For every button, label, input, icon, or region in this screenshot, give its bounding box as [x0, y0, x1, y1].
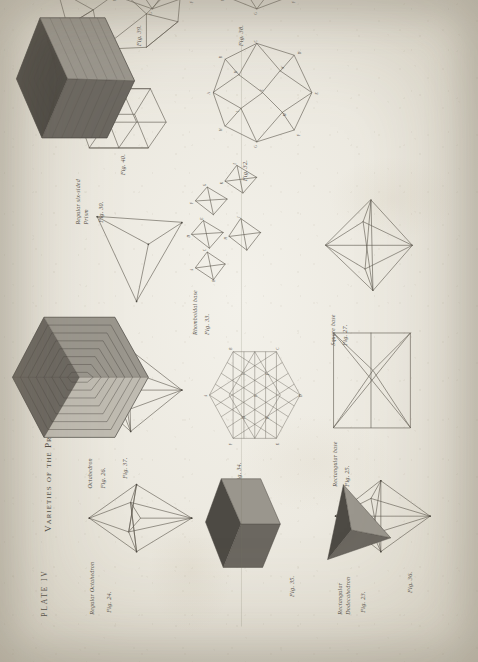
figure-fig26-label: Fig. 26.: [99, 467, 106, 488]
svg-text:E: E: [200, 217, 204, 221]
svg-text:A: A: [207, 92, 211, 96]
svg-text:C: C: [203, 248, 207, 251]
figure-fig27-name: Square base: [330, 314, 337, 345]
figure-fig26-name: Octahedron: [87, 458, 94, 488]
svg-text:F: F: [297, 133, 301, 137]
svg-text:D: D: [298, 51, 302, 55]
svg-text:E: E: [276, 442, 280, 446]
figure-fig24-label: Fig. 24.: [105, 591, 112, 612]
plate-number: PLATE IV: [40, 569, 49, 616]
svg-text:B: B: [212, 279, 216, 282]
svg-text:C: C: [276, 347, 280, 350]
figure-fig30-label: Fig. 30.: [97, 201, 104, 222]
svg-text:K: K: [220, 181, 224, 185]
figure-fig33-label: Fig. 33.: [204, 314, 211, 335]
svg-text:G: G: [203, 183, 207, 186]
svg-text:B: B: [229, 347, 233, 350]
svg-text:F: F: [190, 0, 194, 4]
figure-fig37-label: Fig. 37.: [121, 457, 128, 478]
svg-text:H: H: [219, 128, 223, 132]
svg-text:F: F: [229, 442, 233, 446]
scanned-plate-page: PLATE IV Varieties of the Primitive Form…: [0, 0, 478, 662]
svg-text:G: G: [254, 394, 258, 397]
svg-text:D: D: [299, 394, 303, 398]
svg-text:A: A: [204, 394, 208, 398]
svg-text:G: G: [254, 145, 258, 148]
figure-fig27-label: Fig. 27.: [341, 324, 348, 345]
engraved-plate: PLATE IV Varieties of the Primitive Form…: [32, 35, 446, 626]
svg-text:H: H: [224, 236, 228, 240]
figure-fig36-label: Fig. 36.: [406, 572, 413, 593]
svg-text:D: D: [187, 234, 191, 238]
figure-fig32-label: Fig. 32.: [241, 160, 248, 181]
svg-text:H: H: [221, 0, 225, 2]
figure-fig30-name: Regular six-sided Prism: [75, 167, 90, 224]
svg-text:F: F: [190, 201, 194, 205]
svg-text:G: G: [254, 12, 258, 15]
svg-text:C: C: [254, 39, 258, 42]
svg-text:L: L: [233, 163, 237, 166]
figure-fig40-label: Fig. 40.: [119, 154, 126, 175]
svg-text:H: H: [113, 0, 117, 2]
svg-text:B: B: [219, 55, 223, 58]
figure-fig23-label: Fig. 23.: [359, 591, 366, 612]
figure-fig35-label: Fig. 35.: [288, 576, 295, 597]
scan-crease-line: [241, 35, 242, 626]
figure-fig33-name: Rhomboidal base: [192, 290, 199, 335]
svg-text:A: A: [190, 268, 194, 272]
svg-text:G: G: [149, 12, 153, 15]
figure-fig24-name: Regular Octahedron: [89, 561, 96, 614]
svg-text:E: E: [315, 92, 319, 96]
svg-text:F: F: [292, 0, 296, 4]
